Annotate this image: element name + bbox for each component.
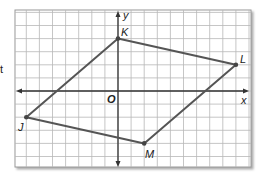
- vertex-point-J: [24, 115, 29, 120]
- vertex-point-M: [142, 141, 147, 146]
- vertex-point-L: [234, 63, 239, 68]
- x-axis-label: x: [240, 94, 247, 106]
- vertex-label-L: L: [240, 53, 246, 65]
- coordinate-plane: y x O K L M J: [0, 0, 262, 180]
- origin-label: O: [107, 93, 116, 105]
- vertex-label-K: K: [121, 26, 129, 38]
- vertex-label-M: M: [145, 148, 155, 160]
- vertex-label-J: J: [17, 121, 24, 133]
- vertex-point-K: [116, 36, 121, 41]
